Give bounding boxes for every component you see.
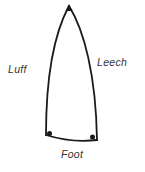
luff-edge (46, 6, 69, 135)
leech-edge (69, 6, 97, 140)
leech-label: Leech (97, 56, 127, 68)
sail-diagram: Luff Leech Foot (0, 0, 145, 172)
foot-edge (46, 135, 97, 141)
foot-label: Foot (61, 148, 83, 160)
luff-label: Luff (8, 63, 27, 75)
tack-marker-icon (47, 131, 52, 136)
clew-marker-icon (90, 135, 95, 140)
sail-outline (0, 0, 145, 172)
head-marker-icon (66, 4, 73, 11)
